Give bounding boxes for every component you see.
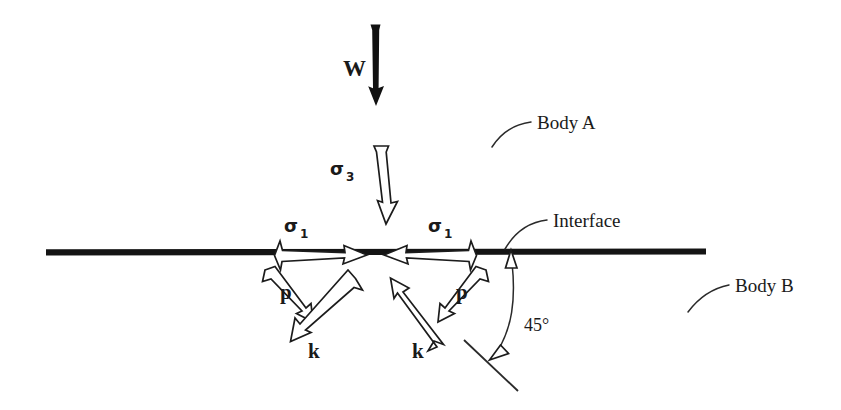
svg-text:1: 1	[300, 227, 308, 241]
interface-stress-figure: W σ 3 σ 1 σ 1 p	[0, 0, 841, 410]
body-a-label: Body A	[537, 112, 596, 133]
weight-arrow	[368, 25, 384, 107]
sigma3-arrow	[374, 146, 398, 224]
interface-label: Interface	[553, 210, 621, 231]
diagram-canvas: W σ 3 σ 1 σ 1 p	[0, 0, 841, 410]
sigma1-left-arrow	[275, 241, 368, 270]
svg-text:3: 3	[346, 170, 354, 184]
k-left-label: k	[308, 339, 320, 363]
svg-text:σ: σ	[428, 215, 442, 236]
weight-label: W	[343, 56, 366, 81]
body-b-label: Body B	[735, 275, 794, 296]
angle-label: 45°	[524, 315, 549, 335]
body-a-leader	[492, 122, 531, 147]
slip-plane-line	[464, 340, 518, 391]
svg-text:1: 1	[444, 227, 452, 241]
interface-line	[46, 248, 706, 255]
sigma3-label: σ 3	[330, 158, 354, 184]
p-left-label: p	[280, 280, 292, 304]
k-right-label: k	[412, 339, 424, 363]
interface-leader	[505, 220, 547, 249]
svg-text:σ: σ	[284, 215, 298, 236]
angle-arc	[490, 250, 518, 360]
sigma1-right-arrow	[384, 241, 477, 270]
sigma1-right-label: σ 1	[428, 215, 452, 241]
p-right-label: p	[456, 280, 468, 304]
body-b-leader	[688, 285, 729, 312]
sigma1-left-label: σ 1	[284, 215, 308, 241]
svg-text:σ: σ	[330, 158, 344, 179]
